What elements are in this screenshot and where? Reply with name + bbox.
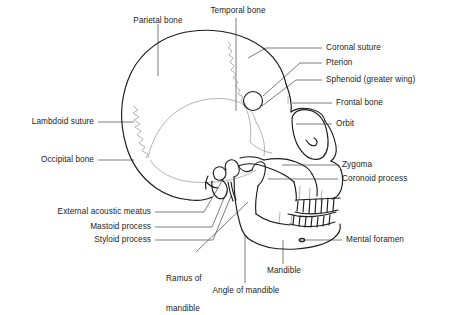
- orbit-inner-detail: [306, 138, 317, 146]
- temporal-line-lower: [150, 160, 256, 183]
- label-occipital-bone: Occipital bone: [4, 155, 94, 165]
- mandibular-condyle: [225, 160, 239, 177]
- label-ramus-of-mandible: Ramus of mandible: [166, 254, 202, 315]
- cranial-vault: [122, 30, 286, 200]
- nasal-bridge: [325, 121, 336, 161]
- zygomatic-body: [264, 159, 312, 174]
- label-sphenoid-greater-wing: Sphenoid (greater wing): [326, 75, 415, 85]
- zygomatic-arch: [240, 157, 264, 160]
- label-pterion: Pterion: [326, 58, 353, 68]
- mandibular-notch: [239, 167, 252, 172]
- pterion-circle: [244, 92, 263, 111]
- label-mastoid-process: Mastoid process: [14, 222, 151, 232]
- coronal-suture-line: [228, 42, 246, 108]
- label-ramus-of-mandible-line1: Ramus of: [166, 274, 202, 284]
- label-lambdoid-suture: Lambdoid suture: [4, 117, 94, 127]
- lower-teeth-base: [290, 222, 335, 226]
- leader-eam-b: [204, 181, 222, 212]
- label-mental-foramen: Mental foramen: [346, 235, 404, 245]
- label-ramus-of-mandible-line2: mandible: [166, 304, 202, 314]
- label-frontal-bone: Frontal bone: [336, 98, 383, 108]
- orbit-outline: [292, 110, 328, 160]
- mandibular-upper-border: [256, 214, 290, 225]
- label-mandible: Mandible: [256, 266, 312, 276]
- external-acoustic-meatus-outline: [213, 167, 226, 180]
- mandible-faint-line-1: [279, 212, 280, 224]
- label-coronoid-process: Coronoid process: [342, 174, 407, 184]
- nasal-spine: [331, 161, 341, 170]
- mandibular-body: [252, 224, 340, 249]
- maxilla-posterior: [294, 182, 296, 201]
- label-zygoma: Zygoma: [342, 160, 372, 170]
- label-parietal-bone: Parietal bone: [121, 16, 195, 26]
- label-styloid-process: Styloid process: [14, 235, 151, 245]
- squamous-suture-line: [148, 99, 256, 159]
- maxilla-lateral: [312, 174, 317, 196]
- leader-mastoid-process-b: [212, 191, 227, 227]
- mandibular-ramus-anterior: [256, 186, 258, 214]
- leader-coronal-suture-b: [248, 48, 266, 58]
- sphenotemporal-line: [246, 108, 251, 142]
- occipital-base: [190, 197, 212, 200]
- label-coronal-suture: Coronal suture: [326, 43, 381, 53]
- maxilla-anterior: [332, 170, 343, 199]
- infratemporal-line: [250, 142, 272, 153]
- label-angle-of-mandible: Angle of mandible: [198, 286, 294, 296]
- label-temporal-bone: Temporal bone: [199, 6, 277, 16]
- maxilla-line-1: [299, 186, 300, 200]
- mandibular-ramus-posterior: [234, 177, 252, 241]
- frontal-forehead: [286, 84, 291, 112]
- label-external-acoustic-meatus: External acoustic meatus: [14, 207, 151, 217]
- label-orbit: Orbit: [336, 119, 354, 129]
- lambdoid-suture-line: [133, 106, 148, 158]
